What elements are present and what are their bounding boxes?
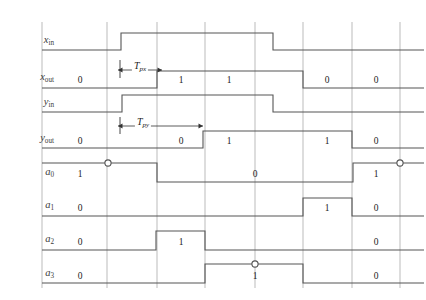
row-label-subscript: out [45,137,54,145]
timing-diagram-canvas [0,0,426,300]
signal-value-x-out-1: 1 [179,75,184,85]
row-label-subscript: 3 [50,272,54,280]
row-label-y-in: yin [20,96,54,109]
event-marker-a0-1 [397,160,403,166]
signal-value-a3-0: 0 [78,271,83,281]
signal-value-y-out-0: 0 [78,136,83,146]
row-label-a2: a2 [20,233,54,246]
signal-value-a3-2: 0 [374,271,379,281]
signal-value-a2-0: 0 [78,237,83,247]
row-label-a3: a3 [20,267,54,280]
figure-background [0,0,426,300]
signal-value-x-out-0: 0 [78,75,83,85]
row-label-subscript: 1 [50,204,54,212]
signal-value-y-out-1: 0 [179,136,184,146]
signal-value-a2-2: 0 [374,237,379,247]
row-label-x-out: xout [20,71,54,84]
timing-diagram-figure: xinxoutyinyouta0a1a2a3 01100001101010100… [0,0,426,300]
signal-value-x-out-2: 1 [227,75,232,85]
row-label-subscript: in [48,101,54,109]
row-label-y-out: yout [20,132,54,145]
row-label-subscript: out [45,76,54,84]
signal-value-a3-1: 1 [253,271,258,281]
signal-value-a0-0: 1 [78,169,83,179]
signal-value-a1-1: 1 [325,203,330,213]
signal-value-y-out-4: 0 [374,136,379,146]
delay-label-subscript: px [139,65,146,73]
signal-value-y-out-3: 1 [325,136,330,146]
row-label-subscript: 2 [50,238,54,246]
signal-value-a2-1: 1 [179,237,184,247]
signal-value-a1-2: 0 [374,203,379,213]
row-label-a1: a1 [20,199,54,212]
signal-value-x-out-3: 0 [325,75,330,85]
signal-value-a0-1: 0 [253,169,258,179]
row-label-subscript: in [48,39,54,47]
delay-label-tpy: Tpy [135,116,151,129]
signal-value-a1-0: 0 [78,203,83,213]
row-label-x-in: xin [20,34,54,47]
delay-label-subscript: py [142,121,149,129]
delay-label-tpx: Tpx [132,60,148,73]
row-label-subscript: 0 [50,171,54,179]
signal-value-a0-2: 1 [374,169,379,179]
signal-value-x-out-4: 0 [374,75,379,85]
signal-value-y-out-2: 1 [227,136,232,146]
event-marker-a3-0 [252,261,258,267]
event-marker-a0-0 [105,160,111,166]
row-label-a0: a0 [20,166,54,179]
